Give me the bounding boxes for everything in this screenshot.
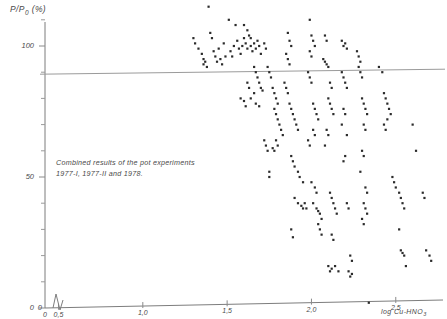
data-point [265, 144, 267, 146]
data-point [290, 108, 292, 110]
data-point [359, 71, 361, 73]
data-point [364, 108, 366, 110]
data-point [256, 76, 258, 78]
data-point [405, 265, 407, 267]
data-point [255, 103, 257, 105]
data-point [326, 63, 328, 65]
data-point [290, 155, 292, 157]
data-point [310, 82, 312, 84]
data-point [253, 42, 255, 44]
data-point [268, 171, 270, 173]
data-point [327, 134, 329, 136]
data-point [211, 37, 213, 39]
data-point [310, 34, 312, 36]
data-point [240, 97, 242, 99]
data-point [288, 40, 290, 42]
data-point [214, 55, 216, 57]
data-point [327, 265, 329, 267]
data-point [221, 63, 223, 65]
data-point [319, 213, 321, 215]
data-point [358, 66, 360, 68]
data-point [295, 124, 297, 126]
data-point [332, 239, 334, 241]
data-point [349, 275, 351, 277]
data-point [246, 82, 248, 84]
data-point [309, 76, 311, 78]
data-point [310, 181, 312, 183]
data-point [256, 40, 258, 42]
data-point [283, 82, 285, 84]
horizontal-reference-line [40, 69, 445, 74]
data-point [314, 108, 316, 110]
data-point [300, 205, 302, 207]
data-point [234, 24, 236, 26]
data-point [314, 186, 316, 188]
data-point [273, 150, 275, 152]
data-point [334, 265, 336, 267]
data-point [285, 53, 287, 55]
x-axis-label-subscript: 3 [423, 311, 426, 317]
data-point [412, 124, 414, 126]
y-axis-ticks [39, 20, 45, 308]
data-point [246, 48, 248, 50]
data-point [324, 144, 326, 146]
data-point [363, 223, 365, 225]
data-point [319, 228, 321, 230]
data-point [351, 260, 353, 262]
data-point [390, 113, 392, 115]
data-point [341, 40, 343, 42]
y-axis-tick-label: 50 [12, 172, 34, 181]
data-point [329, 270, 331, 272]
data-point [331, 108, 333, 110]
scatter-plot-figure: P/P0 (%) log Cu-HNO3 Combined results of… [0, 0, 447, 319]
data-point [302, 181, 304, 183]
data-point [263, 139, 265, 141]
data-point [356, 50, 358, 52]
data-point [329, 82, 331, 84]
data-point [361, 76, 363, 78]
data-point [238, 48, 240, 50]
data-point [292, 236, 294, 238]
data-point [385, 97, 387, 99]
data-point [359, 171, 361, 173]
data-point [347, 270, 349, 272]
data-point [342, 160, 344, 162]
data-point [265, 48, 267, 50]
data-point [231, 55, 233, 57]
data-point [228, 19, 230, 21]
data-point [317, 223, 319, 225]
data-point [324, 34, 326, 36]
data-point [332, 113, 334, 115]
data-point [398, 192, 400, 194]
data-point [261, 89, 263, 91]
data-point [401, 202, 403, 204]
data-point [403, 207, 405, 209]
data-point [241, 45, 243, 47]
data-point [361, 150, 363, 152]
data-point [331, 268, 333, 270]
data-point [229, 50, 231, 52]
data-point [258, 105, 260, 107]
data-point [253, 92, 255, 94]
x-axis-tick-label: 1,5 [215, 307, 239, 314]
data-point [288, 103, 290, 105]
data-point [361, 218, 363, 220]
data-point [344, 155, 346, 157]
y-axis-label-base: P/P [10, 4, 25, 14]
data-point [192, 37, 194, 39]
data-point [288, 63, 290, 65]
data-point [344, 82, 346, 84]
data-point [312, 129, 314, 131]
data-point [364, 207, 366, 209]
data-point [386, 103, 388, 105]
data-point [395, 186, 397, 188]
data-point [223, 42, 225, 44]
data-point [297, 171, 299, 173]
data-point [364, 186, 366, 188]
data-point [268, 71, 270, 73]
data-point [346, 202, 348, 204]
data-point [202, 58, 204, 60]
data-point [272, 147, 274, 149]
data-point [250, 97, 252, 99]
x-axis-tick-label: 1,0 [131, 309, 155, 316]
